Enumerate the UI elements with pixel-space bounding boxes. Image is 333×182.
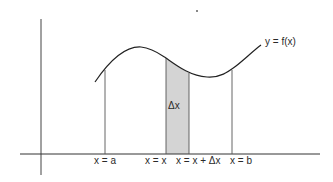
x-label-x: x = x (145, 156, 166, 166)
curve-label: y = f(x) (265, 37, 296, 47)
x-label-a: x = a (94, 156, 116, 166)
artifact-dot (196, 10, 198, 12)
strip-label: Δx (168, 101, 180, 111)
x-label-x-plus-dx: x = x + Δx (176, 156, 220, 166)
riemann-strip-diagram (0, 0, 333, 182)
x-label-b: x = b (230, 156, 252, 166)
